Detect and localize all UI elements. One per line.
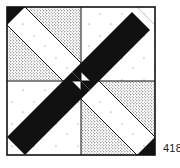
quilt-block-diagram (6, 6, 157, 157)
figure-number-label: 418 (163, 142, 180, 154)
